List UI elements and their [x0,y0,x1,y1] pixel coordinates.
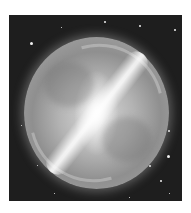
star [54,193,55,194]
star [149,165,151,167]
star [160,180,162,182]
star [104,21,106,23]
galaxy-image [9,15,182,201]
galaxy-sphere [24,37,169,189]
star [61,27,62,28]
star [129,197,130,198]
star [169,193,170,194]
star [167,155,170,158]
star [30,42,33,45]
star [168,130,170,132]
star [37,165,38,166]
star [139,25,141,27]
star [174,29,176,31]
star [21,125,22,126]
